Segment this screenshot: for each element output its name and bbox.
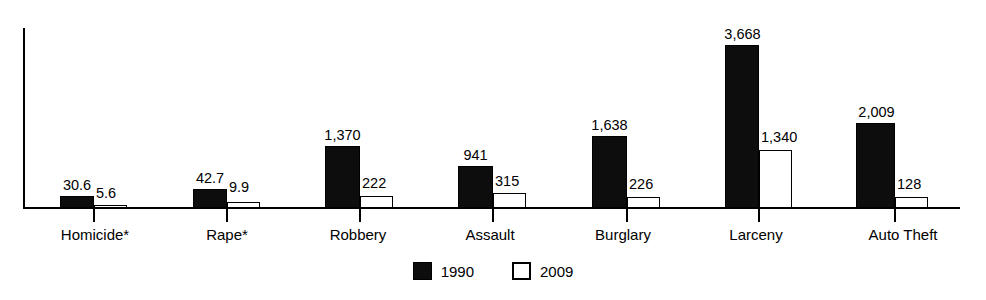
chart-legend: 1990 2009 [0,262,986,280]
value-label-2009: 315 [495,174,519,189]
bar-chart: 30.65.6Homicide*42.79.9Rape*1,370222Robb… [0,0,986,300]
x-axis-tick [93,209,95,222]
category-label: Assault [432,227,548,242]
value-label-1990: 3,668 [701,27,784,42]
legend-swatch-1990 [413,262,432,280]
category-label: Auto Theft [840,227,966,242]
category-label: Rape* [172,227,282,242]
category-label: Burglary [562,227,684,242]
x-axis-tick [226,209,228,222]
bar-2009-assault [493,193,526,208]
x-axis-tick [758,209,760,222]
bar-2009-autotheft [895,197,928,208]
bar-2009-rape [227,202,260,208]
legend-swatch-2009 [512,262,531,280]
bar-1990-robbery [325,146,360,208]
category-label: Homicide* [36,227,154,242]
x-axis-tick [492,209,494,222]
x-axis-tick [359,209,361,222]
bar-1990-burglary [592,136,627,208]
value-label-2009: 226 [629,177,653,192]
value-label-2009: 5.6 [96,186,116,201]
value-label-2009: 222 [362,176,386,191]
value-label-2009: 1,340 [761,130,797,145]
legend-label-1990: 1990 [441,264,474,279]
plot-area: 30.65.6Homicide*42.79.9Rape*1,370222Robb… [0,0,986,300]
legend-entry-1990: 1990 [413,262,474,280]
legend-label-2009: 2009 [540,264,573,279]
value-label-1990: 1,370 [301,128,384,143]
value-label-1990: 2,009 [835,105,918,120]
category-label: Larceny [700,227,812,242]
bar-2009-larceny [759,150,792,208]
x-axis-tick [894,209,896,222]
value-label-1990: 1,638 [568,118,651,133]
value-label-1990: 941 [440,148,511,163]
bar-1990-rape [193,189,227,208]
x-axis-tick [626,209,628,222]
legend-entry-2009: 2009 [512,262,573,280]
value-label-2009: 9.9 [229,180,249,195]
bar-1990-assault [458,166,493,208]
bar-1990-autotheft [856,123,895,208]
bar-1990-homicide [60,196,94,208]
value-label-2009: 128 [897,177,921,192]
bar-2009-burglary [627,197,660,208]
bar-1990-larceny [725,45,759,208]
category-label: Robbery [298,227,418,242]
bar-2009-homicide [94,205,127,208]
bar-2009-robbery [360,196,393,208]
